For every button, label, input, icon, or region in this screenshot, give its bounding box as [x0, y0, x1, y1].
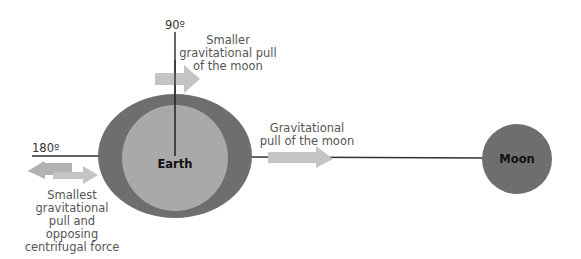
label-smallest-pull-3: pull and: [49, 214, 95, 228]
moon-label: Moon: [499, 152, 534, 166]
label-smaller-pull-3: of the moon: [193, 59, 263, 73]
label-smallest-pull-1: Smallest: [47, 188, 97, 202]
label-smaller-pull-1: Smaller: [206, 33, 250, 47]
label-smaller-pull-2: gravitational pull: [179, 46, 277, 60]
label-smallest-pull-4: opposing: [46, 227, 98, 241]
tide-diagram: 90º 180º Smaller gravitational pull of t…: [0, 0, 581, 259]
arrow-gravitational-pull: [268, 146, 333, 168]
angle-180-label: 180º: [32, 141, 59, 155]
angle-90-label: 90º: [165, 18, 185, 32]
label-smallest-pull-2: gravitational: [36, 201, 109, 215]
label-gravitational-pull-1: Gravitational: [270, 121, 345, 135]
earth-label: Earth: [158, 157, 193, 171]
label-gravitational-pull-2: pull of the moon: [260, 134, 354, 148]
label-smallest-pull-5: centrifugal force: [25, 240, 120, 254]
